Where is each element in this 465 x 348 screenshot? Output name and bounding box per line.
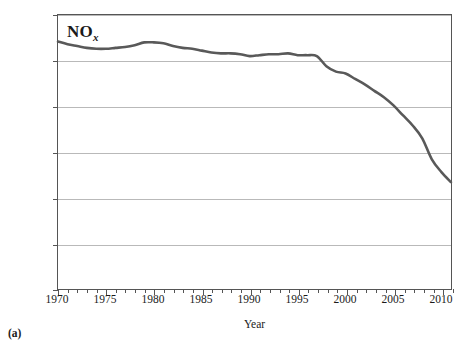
x-tick-label-1985: 1985 <box>176 293 226 305</box>
x-tick-minor-2008 <box>424 289 425 293</box>
x-tick-minor-1972 <box>77 289 78 293</box>
x-tick-minor-1993 <box>280 289 281 293</box>
x-axis-title: Year <box>57 318 452 330</box>
x-tick-minor-1979 <box>145 289 146 293</box>
x-tick-minor-1981 <box>164 289 165 293</box>
x-tick-label-2005: 2005 <box>368 293 418 305</box>
x-tick-minor-1999 <box>337 289 338 293</box>
series-path-nox <box>58 41 451 182</box>
x-tick-minor-1987 <box>222 289 223 293</box>
x-tick-minor-2002 <box>366 289 367 293</box>
x-tick-minor-1998 <box>328 289 329 293</box>
x-tick-minor-2007 <box>414 289 415 293</box>
x-tick-minor-2009 <box>434 289 435 293</box>
x-tick-minor-2004 <box>386 289 387 293</box>
x-tick-minor-1977 <box>125 289 126 293</box>
x-tick-minor-1973 <box>87 289 88 293</box>
x-tick-minor-1974 <box>97 289 98 293</box>
x-tick-label-1980: 1980 <box>128 293 178 305</box>
x-tick-minor-1991 <box>260 289 261 293</box>
x-tick-minor-1982 <box>174 289 175 293</box>
x-tick-minor-2001 <box>357 289 358 293</box>
x-tick-minor-1992 <box>270 289 271 293</box>
x-tick-minor-1988 <box>231 289 232 293</box>
x-tick-minor-1983 <box>183 289 184 293</box>
x-tick-minor-1976 <box>116 289 117 293</box>
x-tick-minor-1978 <box>135 289 136 293</box>
x-tick-minor-1996 <box>308 289 309 293</box>
figure-container: 30 25 20 15 10 5 0 Emissions (million sh… <box>0 0 465 348</box>
x-tick-minor-2006 <box>405 289 406 293</box>
x-tick-minor-2011 <box>453 289 454 293</box>
x-tick-minor-1986 <box>212 289 213 293</box>
x-tick-label-1995: 1995 <box>272 293 322 305</box>
figure-caption: (a) <box>8 327 21 339</box>
x-tick-minor-1989 <box>241 289 242 293</box>
x-tick-minor-1984 <box>193 289 194 293</box>
x-tick-label-1975: 1975 <box>80 293 130 305</box>
x-tick-minor-1997 <box>318 289 319 293</box>
data-series-line <box>58 15 451 289</box>
x-tick-label-2010: 2010 <box>416 293 465 305</box>
x-tick-minor-2003 <box>376 289 377 293</box>
x-tick-minor-1971 <box>68 289 69 293</box>
x-tick-label-2000: 2000 <box>320 293 370 305</box>
x-tick-minor-1994 <box>289 289 290 293</box>
x-tick-label-1990: 1990 <box>224 293 274 305</box>
x-tick-label-1970: 1970 <box>32 293 82 305</box>
plot-area: 30 25 20 15 10 5 0 Emissions (million sh… <box>57 14 452 290</box>
